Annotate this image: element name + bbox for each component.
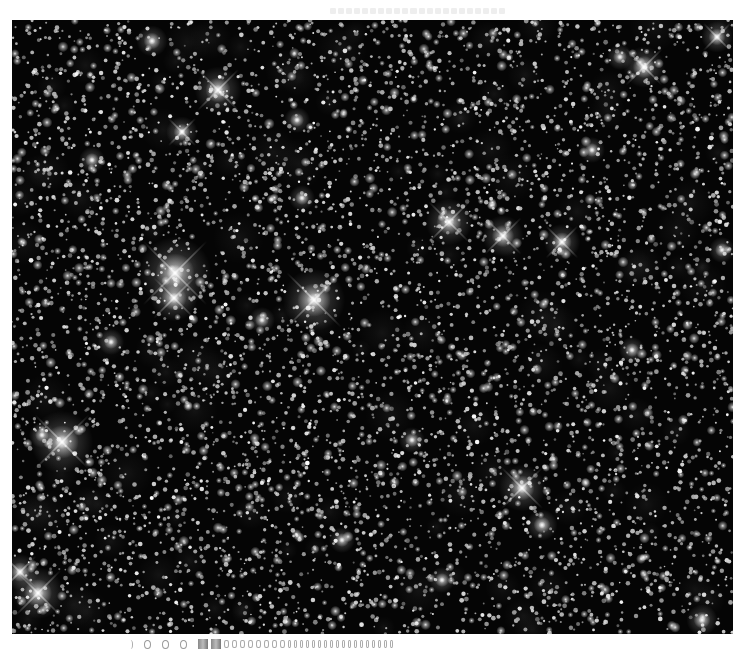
tick-glyph [324,640,327,648]
header-mark [427,8,433,14]
tick-glyph [232,640,237,648]
header-mark [443,8,449,14]
header-mark [362,8,368,14]
ring-glyph [144,640,151,649]
tick-glyph [336,640,339,648]
tick-glyph [372,640,375,648]
header-mark [419,8,425,14]
header-mark [338,8,344,14]
tick-glyph [384,640,387,648]
tick-glyph [330,640,333,648]
tick-glyph [306,640,309,648]
blob-glyph [198,639,208,649]
header-mark [386,8,392,14]
paren-glyph [128,640,133,649]
tick-glyph [272,640,277,648]
tick-glyph [288,640,291,648]
tick-glyph [280,640,285,648]
header-mark [370,8,376,14]
header-mark [451,8,457,14]
header-mark [483,8,489,14]
tick-glyph [294,640,297,648]
star-field-image [12,20,733,634]
header-mark [330,8,336,14]
page [0,0,743,650]
header-mark [435,8,441,14]
ring-glyph [162,640,169,649]
header-mark [459,8,465,14]
tick-glyph [390,640,393,648]
footer-glyph-strip [128,638,393,650]
tick-glyph [300,640,303,648]
tick-glyph [264,640,269,648]
tick-glyph [342,640,345,648]
star-field-canvas [12,20,733,634]
tick-glyph [360,640,363,648]
tick-glyph [378,640,381,648]
tick-glyph [224,640,229,648]
header-mark [410,8,416,14]
header-mark [354,8,360,14]
header-mark [491,8,497,14]
blob-glyph [211,639,221,649]
tick-glyph [318,640,321,648]
faint-header-marks [330,8,505,14]
tick-glyph [366,640,369,648]
header-mark [467,8,473,14]
tick-glyph [248,640,253,648]
header-mark [402,8,408,14]
tick-glyph [354,640,357,648]
header-mark [346,8,352,14]
tick-glyph [256,640,261,648]
header-mark [394,8,400,14]
header-mark [378,8,384,14]
header-mark [499,8,505,14]
ring-glyph [180,640,187,649]
header-mark [475,8,481,14]
tick-glyph [240,640,245,648]
tick-glyph [312,640,315,648]
tick-glyph [348,640,351,648]
